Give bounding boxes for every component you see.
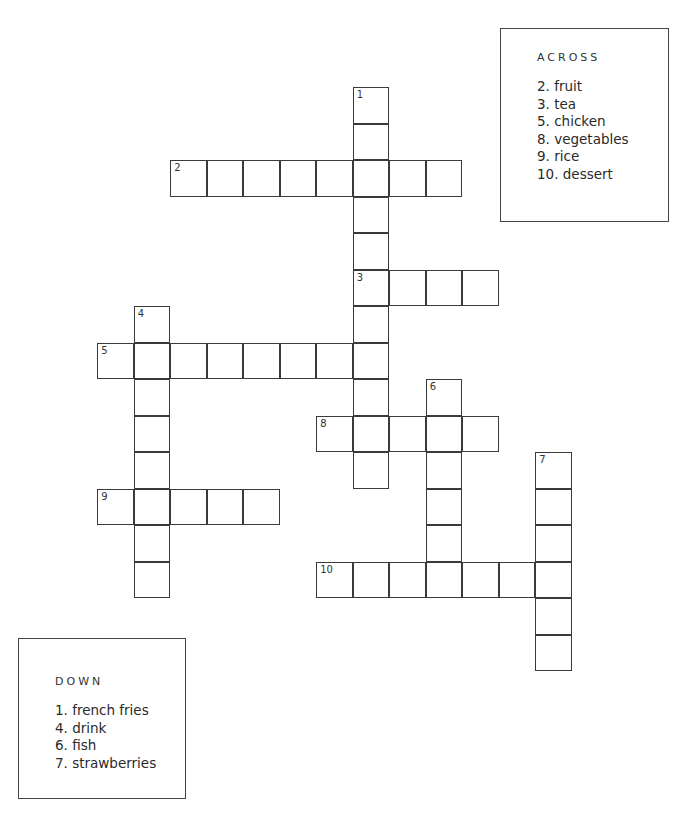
grid-cell[interactable] xyxy=(353,416,390,453)
clue-number: 10 xyxy=(320,564,333,576)
grid-cell[interactable] xyxy=(316,343,353,380)
grid-cell[interactable] xyxy=(426,525,463,562)
grid-cell[interactable] xyxy=(134,379,171,416)
grid-cell[interactable] xyxy=(134,416,171,453)
grid-cell[interactable] xyxy=(316,160,353,197)
grid-cell[interactable] xyxy=(426,270,463,307)
grid-cell[interactable] xyxy=(280,343,317,380)
grid-cell[interactable] xyxy=(462,562,499,599)
down-clue: 4. drink xyxy=(55,720,185,738)
clue-number: 9 xyxy=(101,491,107,503)
grid-cell[interactable] xyxy=(462,416,499,453)
grid-cell[interactable] xyxy=(353,452,390,489)
grid-cell[interactable] xyxy=(207,160,244,197)
grid-cell[interactable] xyxy=(353,306,390,343)
grid-cell[interactable] xyxy=(134,525,171,562)
grid-cell[interactable] xyxy=(134,489,171,526)
grid-cell[interactable]: 6 xyxy=(426,379,463,416)
grid-cell[interactable]: 5 xyxy=(97,343,134,380)
grid-cell[interactable] xyxy=(426,416,463,453)
grid-cell[interactable] xyxy=(535,525,572,562)
down-clue: 7. strawberries xyxy=(55,755,185,773)
grid-cell[interactable] xyxy=(243,343,280,380)
clue-number: 3 xyxy=(357,272,363,284)
grid-cell[interactable] xyxy=(170,343,207,380)
grid-cell[interactable] xyxy=(535,598,572,635)
clue-number: 1 xyxy=(357,89,363,101)
grid-cell[interactable]: 3 xyxy=(353,270,390,307)
across-clue: 9. rice xyxy=(537,148,668,166)
grid-cell[interactable] xyxy=(389,562,426,599)
grid-cell[interactable] xyxy=(426,160,463,197)
across-clue: 8. vegetables xyxy=(537,131,668,149)
grid-cell[interactable] xyxy=(243,160,280,197)
grid-cell[interactable] xyxy=(353,343,390,380)
clue-number: 7 xyxy=(539,454,545,466)
grid-cell[interactable]: 1 xyxy=(353,87,390,124)
grid-cell[interactable] xyxy=(426,562,463,599)
grid-cell[interactable] xyxy=(170,489,207,526)
grid-cell[interactable] xyxy=(353,197,390,234)
grid-cell[interactable]: 8 xyxy=(316,416,353,453)
grid-cell[interactable] xyxy=(134,452,171,489)
grid-cell[interactable]: 9 xyxy=(97,489,134,526)
grid-cell[interactable] xyxy=(134,343,171,380)
down-heading: DOWN xyxy=(55,675,185,688)
grid-cell[interactable] xyxy=(535,562,572,599)
across-clue: 5. chicken xyxy=(537,113,668,131)
grid-cell[interactable] xyxy=(353,562,390,599)
down-clue: 1. french fries xyxy=(55,702,185,720)
grid-cell[interactable]: 2 xyxy=(170,160,207,197)
across-clue: 2. fruit xyxy=(537,78,668,96)
grid-cell[interactable] xyxy=(207,343,244,380)
clue-number: 6 xyxy=(430,381,436,393)
grid-cell[interactable] xyxy=(426,452,463,489)
across-clues-panel: ACROSS 2. fruit 3. tea 5. chicken 8. veg… xyxy=(500,28,669,222)
grid-cell[interactable] xyxy=(535,489,572,526)
grid-cell[interactable] xyxy=(389,416,426,453)
clue-number: 2 xyxy=(174,162,180,174)
clue-number: 4 xyxy=(138,308,144,320)
grid-cell[interactable] xyxy=(353,379,390,416)
grid-cell[interactable] xyxy=(134,562,171,599)
grid-cell[interactable] xyxy=(389,160,426,197)
across-clue: 3. tea xyxy=(537,96,668,114)
grid-cell[interactable] xyxy=(207,489,244,526)
across-clue: 10. dessert xyxy=(537,166,668,184)
clue-number: 8 xyxy=(320,418,326,430)
grid-cell[interactable] xyxy=(499,562,536,599)
grid-cell[interactable] xyxy=(353,160,390,197)
grid-cell[interactable] xyxy=(243,489,280,526)
grid-cell[interactable] xyxy=(535,635,572,672)
grid-cell[interactable] xyxy=(353,124,390,161)
grid-cell[interactable] xyxy=(462,270,499,307)
clue-number: 5 xyxy=(101,345,107,357)
down-clue: 6. fish xyxy=(55,737,185,755)
grid-cell[interactable] xyxy=(353,233,390,270)
down-clues-panel: DOWN 1. french fries 4. drink 6. fish 7.… xyxy=(18,638,186,799)
grid-cell[interactable]: 10 xyxy=(316,562,353,599)
across-heading: ACROSS xyxy=(537,51,668,64)
grid-cell[interactable] xyxy=(280,160,317,197)
grid-cell[interactable]: 4 xyxy=(134,306,171,343)
grid-cell[interactable] xyxy=(426,489,463,526)
grid-cell[interactable]: 7 xyxy=(535,452,572,489)
grid-cell[interactable] xyxy=(389,270,426,307)
